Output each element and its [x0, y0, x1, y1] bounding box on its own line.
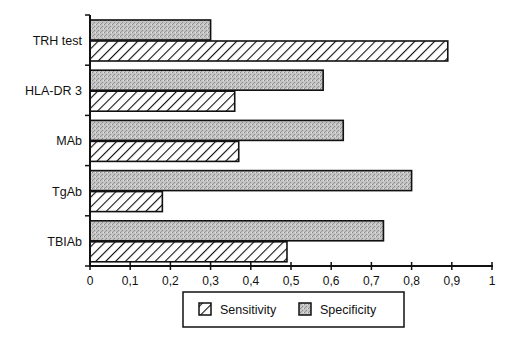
- bar-chart: TRH testHLA-DR 3MAbTgAbTBIAb 00,10,20,30…: [0, 0, 514, 338]
- bar-specificity-4: [90, 221, 383, 241]
- legend-swatch-specificity: [299, 303, 311, 315]
- bar-sensitivity-2: [90, 141, 239, 161]
- category-label: TRH test: [33, 34, 83, 48]
- legend: Sensitivity Specificity: [183, 292, 404, 327]
- category-label: HLA-DR 3: [25, 84, 82, 98]
- bar-specificity-1: [90, 70, 323, 90]
- bar-specificity-0: [90, 20, 211, 40]
- category-label: TgAb: [52, 185, 82, 199]
- x-axis: 00,10,20,30,40,50,60,70,80,91: [87, 262, 496, 288]
- legend-label-specificity: Specificity: [320, 303, 377, 317]
- bar-sensitivity-0: [90, 41, 448, 61]
- x-tick-label: 0,1: [122, 274, 139, 288]
- x-tick-label: 0,7: [363, 274, 380, 288]
- legend-swatch-sensitivity: [199, 303, 211, 315]
- bar-specificity-3: [90, 171, 412, 191]
- bar-sensitivity-4: [90, 242, 287, 262]
- x-tick-label: 0,3: [202, 274, 219, 288]
- x-tick-label: 0,5: [283, 274, 300, 288]
- legend-label-sensitivity: Sensitivity: [220, 303, 277, 317]
- bar-sensitivity-3: [90, 192, 162, 212]
- x-tick-label: 0,9: [443, 274, 460, 288]
- x-tick-label: 1: [489, 274, 496, 288]
- category-labels: TRH testHLA-DR 3MAbTgAbTBIAb: [25, 34, 82, 249]
- bar-sensitivity-1: [90, 91, 235, 111]
- bars-group: [90, 20, 448, 262]
- y-axis: [85, 15, 90, 267]
- category-label: MAb: [56, 134, 82, 148]
- bar-specificity-2: [90, 120, 343, 140]
- x-tick-label: 0,2: [162, 274, 179, 288]
- category-label: TBIAb: [47, 235, 82, 249]
- x-tick-label: 0,8: [403, 274, 420, 288]
- x-tick-label: 0,4: [242, 274, 259, 288]
- x-tick-label: 0,6: [323, 274, 340, 288]
- x-tick-label: 0: [87, 274, 94, 288]
